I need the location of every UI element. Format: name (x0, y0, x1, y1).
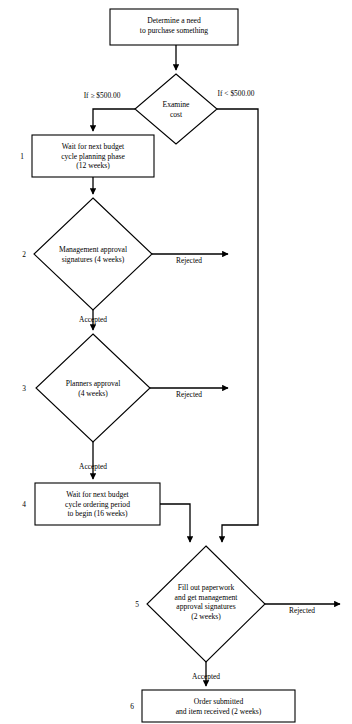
node-management-approval[interactable] (34, 198, 152, 310)
edge-label-rejected-management: Rejected (160, 256, 218, 265)
node-examine-cost[interactable] (135, 74, 217, 144)
edge-examine-to-paperwork (217, 109, 258, 542)
edge-label-accepted-planners: Accepted (65, 462, 121, 471)
step-number-6: 6 (126, 702, 138, 711)
flowchart-diagram: Determine a need to purchase something E… (0, 0, 352, 724)
node-budget-ordering-wait[interactable] (35, 483, 160, 525)
step-number-5: 5 (131, 600, 143, 609)
step-number-2: 2 (18, 250, 30, 259)
node-order-submitted[interactable] (142, 690, 295, 722)
node-budget-planning-wait[interactable] (32, 135, 154, 177)
edge-label-rejected-paperwork: Rejected (273, 606, 331, 615)
step-number-3: 3 (18, 384, 30, 393)
edge-label-cost-greater-equal: If ≥ $500.00 (71, 91, 133, 100)
edge-label-accepted-management: Accepted (65, 315, 121, 324)
step-number-1: 1 (16, 152, 28, 161)
step-number-4: 4 (18, 500, 30, 509)
node-planners-approval[interactable] (36, 334, 150, 442)
edge-label-rejected-planners: Rejected (160, 390, 218, 399)
edge-label-accepted-paperwork: Accepted (178, 672, 234, 681)
edge-examine-to-planning-wait (93, 109, 135, 131)
node-determine-need[interactable] (110, 9, 238, 45)
edge-ordering-wait-to-paperwork (160, 504, 190, 542)
node-fill-paperwork[interactable] (147, 546, 265, 662)
